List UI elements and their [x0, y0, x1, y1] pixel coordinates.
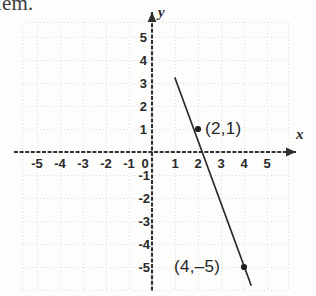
- y-tick-label: -2: [138, 192, 150, 205]
- x-tick-label: -3: [77, 157, 89, 170]
- figure-page: lem.: [0, 0, 316, 296]
- data-point-marker: [241, 264, 247, 270]
- data-point-marker: [195, 126, 201, 132]
- y-axis-label: y: [158, 4, 165, 21]
- x-tick-label: -4: [54, 157, 66, 170]
- x-tick-label: 5: [263, 157, 270, 170]
- point-label-4-neg5: (4,–5): [174, 257, 220, 277]
- y-tick-label: -5: [138, 261, 150, 274]
- plotted-line: [175, 78, 251, 285]
- x-tick-label: 1: [171, 157, 178, 170]
- y-tick-label: 3: [140, 77, 147, 90]
- x-tick-label: 4: [240, 157, 247, 170]
- x-axis-arrow-icon: [286, 148, 296, 157]
- y-tick-label: 5: [140, 31, 147, 44]
- x-tick-label: -1: [123, 157, 135, 170]
- coordinate-plane-figure: -5 -4 -3 -2 -1 0 1 2 3 4 5 5 4 3 2 1 -1 …: [0, 0, 316, 296]
- x-axis-label: x: [296, 126, 304, 143]
- y-tick-label: 1: [140, 123, 147, 136]
- y-tick-label: 2: [140, 100, 147, 113]
- x-tick-label: -5: [31, 157, 43, 170]
- x-tick-label: 3: [217, 157, 224, 170]
- y-tick-label: 4: [140, 54, 147, 67]
- x-tick-label: 2: [194, 157, 201, 170]
- y-tick-label: -4: [138, 238, 150, 251]
- point-label-2-1: (2,1): [205, 119, 241, 139]
- y-tick-label: -1: [138, 169, 150, 182]
- y-tick-label: -3: [138, 215, 150, 228]
- x-tick-label: -2: [100, 157, 112, 170]
- y-axis-arrow-icon: [148, 12, 157, 22]
- graph-svg: [0, 0, 316, 296]
